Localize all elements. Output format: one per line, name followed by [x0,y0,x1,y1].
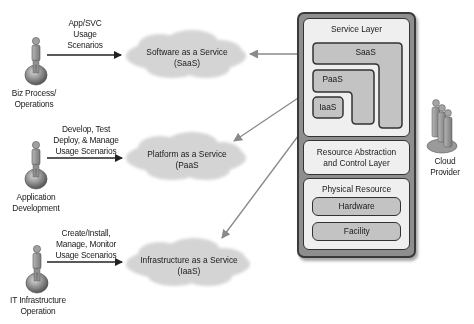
actor-line: Biz Process/ [6,87,62,98]
person-globe-icon-appdev [25,141,47,189]
facility-text: Facility [343,223,369,239]
hardware-block: Hardware [312,197,401,216]
actor-label-itops: IT Infrastructure Operation [1,294,75,316]
saas-label: SaaS [343,46,389,57]
cloud-line: Software as a Service [138,46,237,57]
usage-label-paas: Develop, Test Deploy, & Manage Usage Sce… [50,123,122,156]
usage-line: Create/Install, [53,227,120,238]
usage-line: Scenarios [59,39,112,50]
saas-text: SaaS [356,46,376,57]
provider-line: Provider [425,166,465,177]
person-globe-icon-itops [26,245,48,293]
provider-line: Cloud [425,155,465,166]
usage-line: Usage Scenarios [53,249,120,260]
cloud-line: Infrastructure as a Service [133,254,246,265]
cloud-iaas-label: Infrastructure as a Service (IaaS) [133,254,246,276]
cloud-line: (PaaS [138,159,237,170]
actor-line: Application [4,191,67,202]
actor-line: Operations [6,98,62,109]
hardware-text: Hardware [338,198,374,214]
actor-label-biz: Biz Process/ Operations [6,87,62,109]
usage-line: Manage, Monitor [53,238,120,249]
usage-label-iaas: Create/Install, Manage, Monitor Usage Sc… [53,227,120,260]
physical-resource-panel: Physical Resource Layer Hardware Facilit… [303,178,410,250]
iaas-label: IaaS [313,101,343,112]
usage-line: Deploy, & Manage [50,134,122,145]
cloud-line: (IaaS) [133,265,246,276]
actor-line: Operation [1,305,75,316]
usage-line: Usage [59,28,112,39]
usage-line: Usage Scenarios [50,145,122,156]
resource-abstraction-line2: and Control Layer [310,157,402,168]
actor-label-appdev: Application Development [4,191,67,213]
cloud-provider-label: Cloud Provider [425,155,465,177]
person-globe-icon-biz [25,37,47,85]
actor-line: Development [4,202,67,213]
resource-abstraction-line1: Resource Abstraction [310,146,402,157]
cloud-paas-label: Platform as a Service (PaaS [138,148,237,170]
resource-abstraction-panel: Resource Abstraction and Control Layer [303,140,410,175]
usage-line: App/SVC [59,17,112,28]
usage-line: Develop, Test [50,123,122,134]
paas-text: PaaS [323,73,343,84]
usage-label-saas: App/SVC Usage Scenarios [59,17,112,50]
facility-block: Facility [312,222,401,241]
actor-line: IT Infrastructure [1,294,75,305]
cloud-line: Platform as a Service [138,148,237,159]
cloud-provider-group-icon [427,100,457,153]
paas-label: PaaS [313,73,353,84]
cloud-line: (SaaS) [138,57,237,68]
cloud-saas-label: Software as a Service (SaaS) [138,46,237,68]
iaas-text: IaaS [319,101,336,112]
